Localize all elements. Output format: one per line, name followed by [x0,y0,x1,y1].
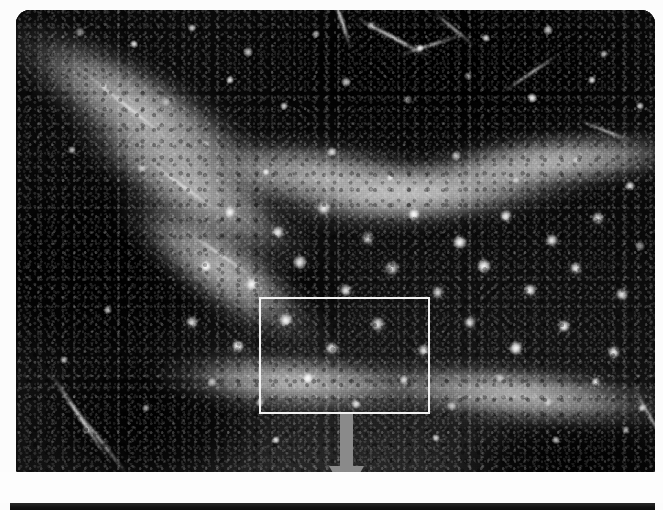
next-micrograph-top-edge[interactable] [10,503,655,510]
main-micrograph[interactable] [16,10,655,472]
figure-root: ▮ ▯▮▯ ▮▯ ▮▯▮ ▯▮ ▮▯▮▯ ▯▮ ▮▯ ▮▯▮ ▯▮▯ ▮▯ ▮▯… [0,0,663,510]
white-gutter: ▮ ▯▮▯ ▮▯ ▮▯▮ ▯▮ ▮▯▮▯ ▯▮ ▮▯ ▮▯▮ ▯▮▯ ▮▯ ▮▯… [0,472,663,503]
